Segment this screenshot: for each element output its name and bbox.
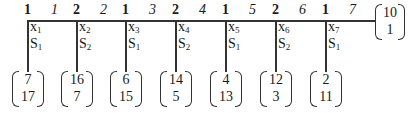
branch-x-label: x3	[128, 19, 140, 35]
top-italic-label: 2	[100, 2, 107, 18]
branch-s-label: S1	[30, 36, 42, 52]
top-bold-label: 1	[322, 2, 329, 18]
end-vector: 10 1	[375, 4, 405, 40]
branch-x-label: x7	[328, 19, 340, 35]
branch-vector: 7 17	[12, 71, 44, 107]
top-italic-label: 7	[349, 2, 356, 18]
branch-s-label: S1	[128, 36, 140, 52]
top-italic-label: 1	[51, 2, 58, 18]
branch-vector: 2 11	[310, 71, 342, 107]
branch-s-label: S2	[278, 36, 290, 52]
branch-vector: 6 15	[110, 71, 142, 107]
branch-x-label: x6	[278, 19, 290, 35]
top-italic-label: 6	[299, 2, 306, 18]
top-italic-label: 3	[149, 2, 156, 18]
top-italic-label: 4	[199, 2, 206, 18]
branch-line	[125, 20, 127, 72]
top-bold-label: 1	[122, 2, 129, 18]
branch-line	[225, 20, 227, 72]
branch-s-label: S2	[178, 36, 190, 52]
branch-line	[275, 20, 277, 72]
branch-x-label: x4	[178, 19, 190, 35]
branch-x-label: x2	[79, 19, 91, 35]
branch-line	[325, 20, 327, 72]
top-bold-label: 1	[222, 2, 229, 18]
branch-vector: 16 7	[61, 71, 93, 107]
branch-line	[175, 20, 177, 72]
branch-x-label: x1	[30, 19, 42, 35]
branch-s-label: S2	[79, 36, 91, 52]
branch-s-label: S1	[328, 36, 340, 52]
branch-line	[76, 20, 78, 72]
branch-s-label: S1	[228, 36, 240, 52]
branch-x-label: x5	[228, 19, 240, 35]
branch-line	[27, 20, 29, 72]
top-bold-label: 2	[73, 2, 80, 18]
top-bold-label: 2	[172, 2, 179, 18]
branch-vector: 12 3	[260, 71, 292, 107]
top-bold-label: 2	[272, 2, 279, 18]
branch-vector: 4 13	[210, 71, 242, 107]
top-bold-label: 1	[24, 2, 31, 18]
branch-vector: 14 5	[160, 71, 192, 107]
top-italic-label: 5	[249, 2, 256, 18]
